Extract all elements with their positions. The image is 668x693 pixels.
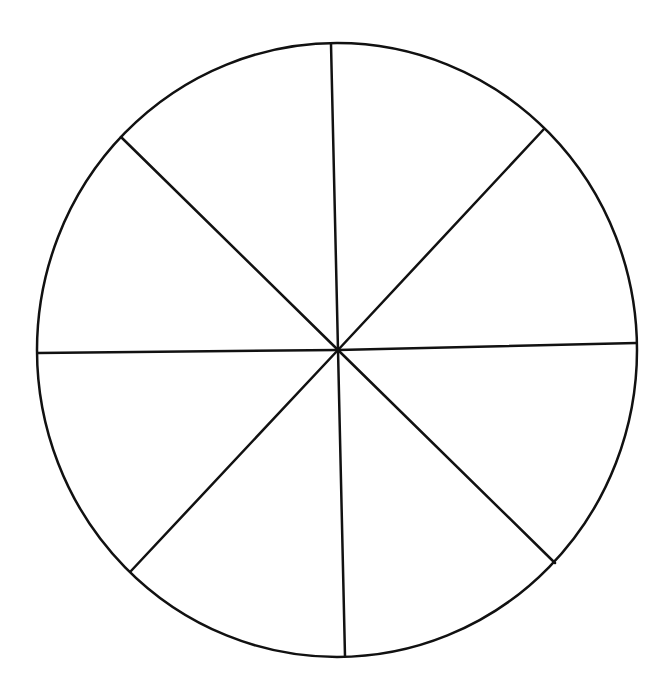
spoke-lines: [38, 44, 636, 656]
spoke-bottom: [338, 350, 345, 656]
spoke-bottom-right: [338, 350, 555, 563]
spoke-top-right: [338, 129, 544, 350]
segmented-circle-diagram: [0, 0, 668, 693]
spoke-right: [338, 343, 636, 350]
spoke-top: [331, 44, 338, 350]
spoke-bottom-left: [131, 350, 338, 571]
spoke-top-left: [121, 137, 338, 350]
spoke-left: [38, 350, 338, 353]
diagram-canvas: [0, 0, 668, 693]
